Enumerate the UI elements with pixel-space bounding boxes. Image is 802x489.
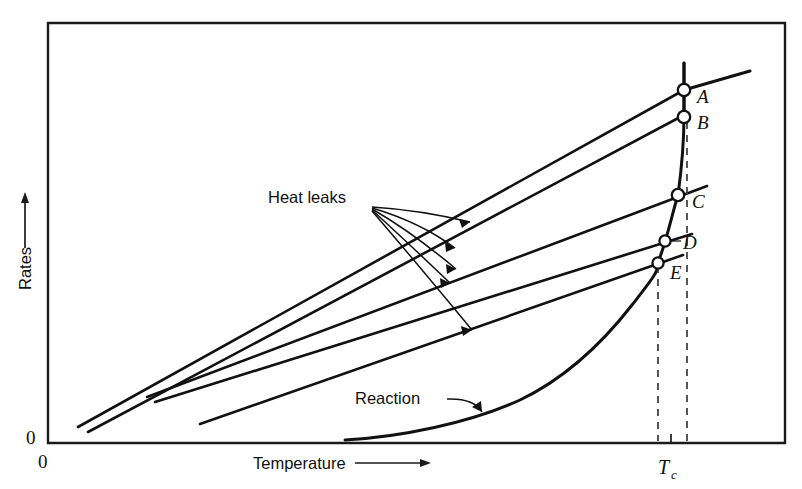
marker-point-b	[678, 111, 690, 123]
heat-leak-arrow-5	[372, 211, 472, 330]
y-axis-arrowhead	[21, 192, 29, 203]
y-axis-zero-label: 0	[26, 427, 36, 448]
marker-point-a	[678, 84, 690, 96]
tc-label-subscript: c	[671, 467, 677, 482]
heat-leak-line-a	[78, 90, 684, 427]
label-point-b: B	[697, 112, 709, 133]
annotation-reaction: Reaction	[355, 389, 420, 407]
marker-point-c	[672, 189, 684, 201]
heat-leak-arrow-1	[372, 207, 470, 222]
tc-label-base: T	[658, 456, 671, 478]
x-axis-zero-label: 0	[38, 451, 48, 472]
label-point-e: E	[669, 262, 682, 283]
heat-leak-arrowhead-4	[440, 278, 450, 288]
x-axis-arrowhead	[420, 459, 431, 467]
y-axis-label: Rates	[16, 247, 34, 290]
label-point-d: D	[682, 232, 697, 253]
plot-frame	[48, 23, 785, 443]
rates-vs-temperature-chart: A B C D E Heat leaks Reaction	[0, 0, 802, 489]
x-axis-label: Temperature	[253, 454, 346, 472]
reaction-arrowhead	[472, 401, 482, 412]
marker-point-e	[652, 257, 663, 268]
annotation-heat-leaks: Heat leaks	[268, 188, 346, 206]
label-point-c: C	[692, 191, 705, 212]
marker-point-d	[659, 235, 670, 246]
label-point-a: A	[695, 86, 709, 107]
heat-leak-line-c	[147, 186, 707, 397]
figure-container: A B C D E Heat leaks Reaction	[0, 0, 802, 489]
heat-leak-line-d	[155, 234, 692, 402]
